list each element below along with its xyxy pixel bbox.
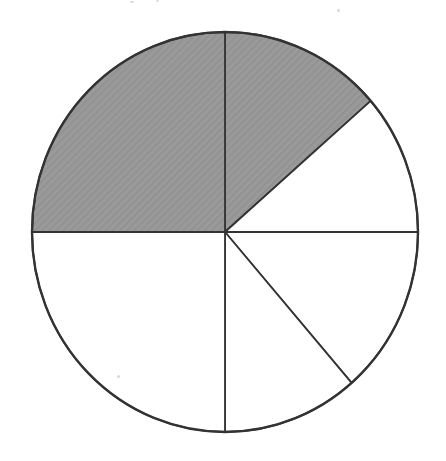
scan-artifact xyxy=(130,1,134,3)
pie-sector-unshaded xyxy=(32,232,225,432)
scan-artifact xyxy=(337,9,340,12)
pie-sector-shaded xyxy=(32,32,225,232)
pie-chart xyxy=(0,0,446,461)
scan-artifact xyxy=(156,0,159,2)
scan-artifact xyxy=(117,375,120,378)
figure-canvas xyxy=(0,0,446,461)
